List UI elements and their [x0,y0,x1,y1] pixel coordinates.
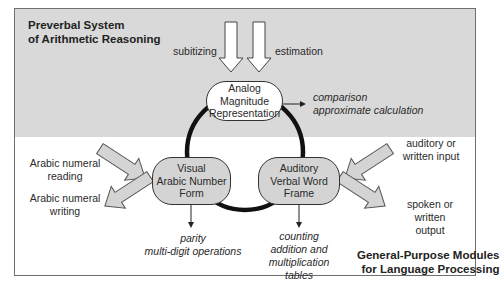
arabic-writing-line1: Arabic numeral [30,192,101,204]
preverbal-title-line2: of Arithmetic Reasoning [28,33,160,45]
language-modules-title-line2: for Language Processing [357,263,499,275]
spoken-output-line1: spoken or [407,198,453,210]
preverbal-title-line1: Preverbal System [28,19,125,31]
language-modules-title: General-Purpose Modules for Language Pro… [357,248,500,276]
multi-digit-label: multi-digit operations [145,245,242,257]
analog-node-line3: Representation [209,107,280,120]
arabic-writing-label: Arabic numeral writing [26,192,104,218]
estimation-label: estimation [275,45,323,58]
arabic-writing-line2: writing [50,205,80,217]
arabic-reading-line2: reading [47,170,82,182]
visual-arabic-node: Visual Arabic Number Form [152,157,231,205]
language-modules-title-line1: General-Purpose Modules [357,249,500,261]
arabic-reading-label: Arabic numeral reading [26,157,104,183]
preverbal-title: Preverbal System of Arithmetic Reasoning [28,18,160,46]
visual-node-line2: Arabic Number [156,175,226,188]
spoken-output-line3: output [415,224,444,236]
auditory-verbal-node: Auditory Verbal Word Frame [258,157,340,205]
auditory-input-label: auditory or written input [396,137,466,163]
auditory-node-line1: Auditory [270,162,328,175]
spoken-output-line2: written [415,211,446,223]
visual-output-label: parity multi-digit operations [138,232,248,258]
analog-magnitude-node: Analog Magnitude Representation [206,81,283,121]
counting-label: counting [279,230,319,242]
subitizing-label: subitizing [173,45,217,58]
auditory-output-arrow-icon [296,205,302,228]
auditory-input-line2: written input [403,150,460,162]
analog-output-label: comparison approximate calculation [313,91,423,117]
parity-label: parity [180,232,206,244]
estimation-arrow-icon [247,22,271,72]
analog-node-line2: Magnitude [209,95,280,108]
visual-output-arrow-icon [188,205,194,228]
spoken-output-label: spoken or written output [400,198,460,237]
tables-label: tables [285,269,313,281]
auditory-node-line3: Frame [270,187,328,200]
visual-node-line3: Form [156,187,226,200]
auditory-output-label: counting addition and multiplication tab… [260,230,338,282]
visual-node-line1: Visual [156,162,226,175]
approximate-calculation-label: approximate calculation [313,104,423,116]
subitizing-arrow-icon [219,22,243,72]
auditory-node-line2: Verbal Word [270,175,328,188]
analog-output-arrow-icon [283,101,306,107]
comparison-label: comparison [313,91,367,103]
addition-label: addition and [270,243,327,255]
auditory-input-line1: auditory or [406,137,456,149]
arabic-reading-line1: Arabic numeral [30,157,101,169]
analog-node-line1: Analog [209,82,280,95]
multiplication-label: multiplication [269,256,330,268]
